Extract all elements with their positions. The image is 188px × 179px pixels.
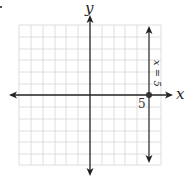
coordinate-plane [0,0,188,179]
corner-mark [0,6,2,8]
line-label: x = 5 [152,60,163,87]
point-5-0 [146,92,152,98]
tick-label-5: 5 [138,97,146,111]
y-axis-label: y [85,0,93,17]
x-axis-label: x [176,85,184,103]
